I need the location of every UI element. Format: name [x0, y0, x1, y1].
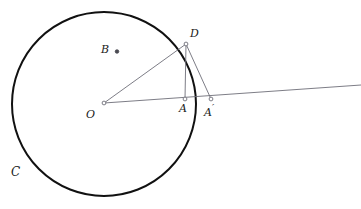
point-marker-o [102, 101, 106, 105]
label-point-b: B [101, 44, 109, 55]
label-point-aprime-letter: A [204, 106, 212, 119]
label-point-aprime-prime-mark: ′ [212, 102, 214, 113]
label-point-aprime: A′ [204, 103, 214, 118]
segment-d-a [185, 44, 186, 99]
point-marker-b [115, 50, 119, 54]
label-point-o: O [86, 109, 95, 120]
label-circle-c: C [11, 166, 20, 178]
label-point-d: D [190, 28, 199, 39]
point-marker-d [184, 42, 188, 46]
geometry-diagram-canvas: O D A A′ B C [0, 0, 361, 209]
point-marker-a [183, 97, 187, 101]
label-point-a: A [179, 103, 187, 114]
segment-o-ray-right [104, 85, 361, 103]
point-marker-aprime [209, 97, 213, 101]
